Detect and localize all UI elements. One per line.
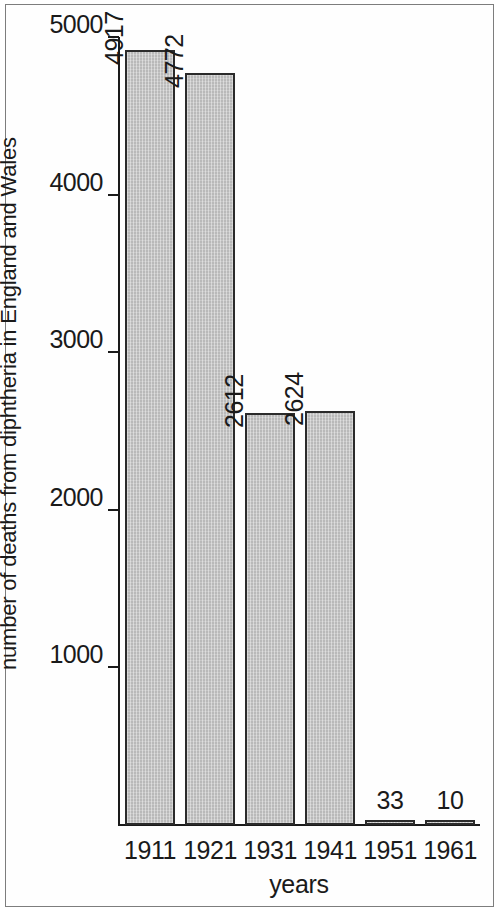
bar-value-label: 10 [410,788,490,813]
y-axis-tick [108,666,119,668]
bar [185,73,235,825]
y-axis-tick-label-text: 5000 [3,12,103,37]
bar-value-label: 2612 [222,375,247,429]
y-axis-tick [108,509,119,511]
y-axis-tick [108,351,119,353]
bar [365,820,415,825]
bar-chart: 50004000300020001000 4917477226122624331… [0,0,500,916]
x-axis-tick-label: 1961 [410,836,490,865]
y-axis-title-label: number of deaths from diphtheria in Engl… [0,137,22,670]
bar [305,411,355,825]
x-axis-title: years [118,870,480,898]
y-axis-line [118,37,120,826]
bar [425,820,475,825]
bar [245,413,295,825]
bar-value-label: 2624 [282,373,307,427]
bar [125,50,175,825]
y-axis-title: number of deaths from diphtheria in Engl… [22,200,52,670]
bar-value-label: 4917 [102,11,127,65]
bar-value-label: 4772 [162,34,187,88]
y-axis-tick [108,194,119,196]
y-axis-tick-label: 5000 [0,12,103,38]
